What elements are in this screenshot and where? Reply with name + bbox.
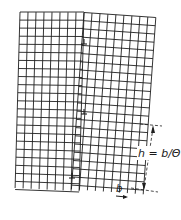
lattice-column-line [23,12,28,188]
lattice-column-line [87,14,100,191]
lattice-column-line [119,16,132,193]
lattice-row-line [78,103,150,108]
lattice-row-line [82,45,154,50]
lattice-row-line [76,128,148,133]
arrow-down-icon [142,183,146,190]
lattice-row-line [75,144,147,149]
lattice-column-line [103,15,116,192]
lattice-column-line [47,12,52,189]
lattice-row-line [84,13,156,18]
lattice-column-line [95,14,108,191]
lattice-row-line [73,169,145,174]
arrow-up-icon [151,125,155,133]
tilt-boundary-diagram: h = b/Θ b [0,0,181,220]
lattice-row-line [76,119,148,124]
lattice-column-line [135,17,148,194]
left-grain-lattice [15,12,84,192]
lattice-row-line [72,185,144,190]
lattice-row-line [18,93,82,94]
lattice-row-line [19,60,83,61]
lattice-row-line [74,161,146,166]
lattice-row-line [83,29,155,34]
lattice-row-line [81,62,153,67]
lattice-row-line [74,152,146,157]
burgers-arrow-icon [123,195,128,199]
lattice-column-line [111,15,124,192]
lattice-column-line [31,12,36,189]
lattice-row-line [78,95,150,100]
lattice-row-line [18,101,82,102]
lattice-column-line [143,18,156,195]
lattice-row-line [15,190,79,193]
lattice-column-line [15,12,20,188]
lattice-row-line [81,54,153,59]
lattice-row-line [83,21,155,26]
lattice-row-line [79,87,151,92]
lattice-row-line [82,37,154,42]
lattice-row-line [80,70,152,75]
lattice-row-line [19,52,83,53]
spacing-label: h = b/Θ [138,147,181,160]
burgers-label: b [116,183,122,194]
lattice-column-line [127,16,140,193]
lattice-row-line [75,136,147,141]
lattice-row-line [72,177,144,182]
lattice-row-line [18,85,82,86]
lattice-column-line [39,12,44,189]
lattice-row-line [18,77,82,78]
lattice-row-line [18,69,82,70]
lattice-row-line [77,111,149,116]
lattice-row-line [79,78,151,83]
burgers-vector: b [116,183,128,199]
